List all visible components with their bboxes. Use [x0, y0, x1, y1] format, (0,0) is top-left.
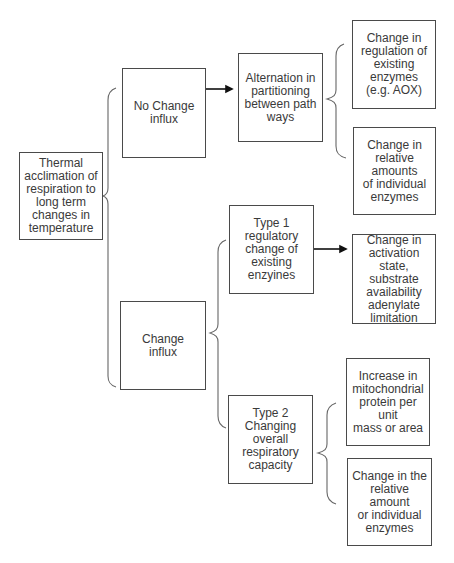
node-change-label: Change influx — [142, 333, 184, 359]
node-alternation-label: Alternation in partitioning between path… — [244, 72, 316, 124]
node-mito-protein: Increase in mitochondrial protein per un… — [346, 358, 430, 446]
node-regulation: Change in regulation of existing enzymes… — [352, 20, 436, 109]
brace-root — [103, 88, 116, 387]
node-alternation: Alternation in partitioning between path… — [238, 53, 323, 142]
diagram-canvas: Thermal acclimation of respiration to lo… — [0, 0, 454, 563]
brace-change — [210, 240, 226, 428]
node-root: Thermal acclimation of respiration to lo… — [19, 152, 103, 240]
node-relative-amount-individual-label: Change in the relative amount or individ… — [351, 470, 428, 535]
node-type2: Type 2 Changing overall respiratory capa… — [228, 395, 313, 484]
node-relative-amounts-label: Change in relative amounts of individual… — [357, 139, 432, 204]
node-type2-label: Type 2 Changing overall respiratory capa… — [232, 407, 309, 472]
node-no-change-influx: No Change influx — [122, 68, 206, 158]
brace-type2 — [318, 403, 336, 504]
node-activation-label: Change in activation state, substrate av… — [356, 234, 432, 325]
node-relative-amounts: Change in relative amounts of individual… — [353, 127, 436, 215]
node-type1-label: Type 1 regulatory change of existing enz… — [233, 217, 310, 282]
node-change-influx: Change influx — [120, 301, 206, 390]
node-relative-amount-individual: Change in the relative amount or individ… — [347, 458, 432, 546]
node-mito-protein-label: Increase in mitochondrial protein per un… — [350, 370, 426, 435]
node-root-label: Thermal acclimation of respiration to lo… — [24, 157, 97, 235]
node-regulation-label: Change in regulation of existing enzymes… — [356, 32, 432, 97]
brace-alternation — [327, 44, 346, 158]
node-type1: Type 1 regulatory change of existing enz… — [229, 205, 314, 294]
node-no-change-label: No Change influx — [134, 100, 195, 126]
node-activation: Change in activation state, substrate av… — [352, 234, 436, 324]
